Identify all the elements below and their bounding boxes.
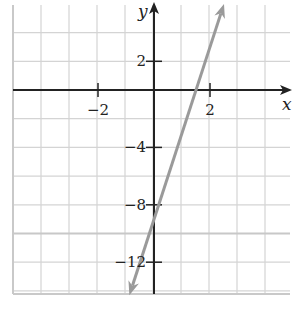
grid-lines [13,5,290,294]
y-axis-label: y [137,1,148,21]
axis-labels: −222−4−8−12xy [87,1,292,271]
y-tick-label: 2 [136,52,146,70]
x-tick-label: −2 [87,101,109,119]
x-axis-label: x [282,94,292,114]
y-tick-label: −12 [114,253,146,271]
y-tick-label: −4 [124,138,146,156]
y-tick-label: −8 [124,196,146,214]
x-tick-label: 2 [205,101,215,119]
coordinate-plane: −222−4−8−12xy [0,0,292,316]
